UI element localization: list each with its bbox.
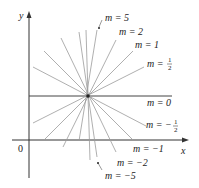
label-m-neg-1: m = −1 bbox=[133, 143, 164, 154]
label-m-0: m = 0 bbox=[147, 97, 171, 108]
x-axis-label: x bbox=[180, 145, 186, 156]
label-m-neg-2: m = −2 bbox=[117, 157, 148, 168]
label-m-1: m = 1 bbox=[135, 39, 159, 50]
pointer-dot-m-neg-5 bbox=[97, 162, 99, 164]
label-m-half-den: 2 bbox=[168, 64, 172, 72]
x-axis-arrow-icon bbox=[182, 138, 189, 143]
label-m-neg-half-num: 1 bbox=[174, 118, 178, 126]
label-m-neg-half: m = − bbox=[146, 119, 172, 130]
label-m-5: m = 5 bbox=[105, 12, 129, 23]
y-axis-arrow-icon bbox=[27, 11, 32, 18]
label-m-half: m = bbox=[147, 58, 163, 69]
center-point bbox=[86, 94, 90, 98]
slope-family-diagram: y x 0 m = 5 m = 2 m = 1 m = 1 2 m = 0 m … bbox=[0, 0, 199, 188]
label-m-neg-half-den: 2 bbox=[174, 126, 178, 134]
pointer-dot-m-5 bbox=[98, 27, 100, 29]
label-m-2: m = 2 bbox=[119, 26, 143, 37]
origin-label: 0 bbox=[18, 143, 23, 154]
pointer-m-neg-5 bbox=[98, 163, 102, 170]
y-axis-label: y bbox=[18, 10, 24, 21]
pointer-m-5 bbox=[99, 20, 102, 27]
label-m-neg-5: m = −5 bbox=[105, 170, 136, 181]
label-m-half-num: 1 bbox=[168, 56, 172, 64]
